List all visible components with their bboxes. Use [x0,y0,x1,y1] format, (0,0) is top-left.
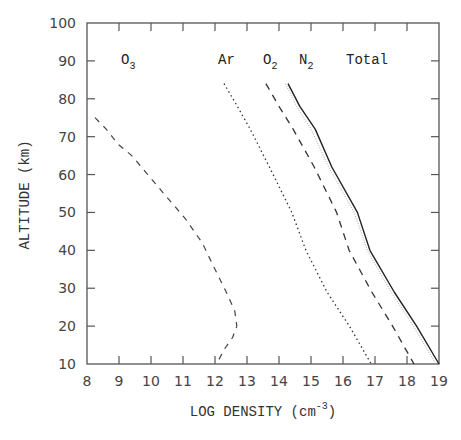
x-tick-label: 10 [142,373,160,389]
chart-canvas: 8910111213141516171819 10203040506070809… [0,0,461,440]
y-tick-label: 50 [58,204,76,220]
x-axis-title: LOG DENSITY (cm-3) [190,401,336,420]
y-tick-label: 90 [58,53,76,69]
x-tick-label: 12 [206,373,224,389]
x-tick-label: 9 [115,373,124,389]
label-o2: O2 [263,52,277,72]
y-tick-label: 40 [58,242,76,258]
x-tick-label: 13 [238,373,256,389]
curve-labels: O3ArO2N2Total [121,52,388,72]
y-tick-label: 100 [49,15,76,31]
x-tick-label: 8 [83,373,92,389]
y-tick-label: 80 [58,91,76,107]
x-tick-label: 17 [366,373,384,389]
plot-frame [87,23,439,364]
curve-o3 [95,118,237,364]
curve-ar [224,84,371,364]
curve-total [288,84,439,364]
plot-border [87,23,439,364]
label-total: Total [346,52,388,68]
label-ar: Ar [218,52,235,68]
y-tick-label: 20 [58,318,76,334]
curve-o2 [266,84,414,364]
x-tick-label: 14 [270,373,288,389]
x-axis: 8910111213141516171819 [83,23,448,389]
x-tick-label: 16 [334,373,352,389]
y-tick-label: 60 [58,167,76,183]
y-tick-label: 70 [58,129,76,145]
label-o3: O3 [121,52,135,72]
x-tick-label: 11 [174,373,192,389]
y-tick-label: 10 [58,356,76,372]
x-tick-label: 15 [302,373,320,389]
curves [95,84,439,364]
y-axis: 102030405060708090100 [49,15,439,372]
label-n2: N2 [299,52,313,72]
x-tick-label: 19 [430,373,448,389]
x-tick-label: 18 [398,373,416,389]
y-tick-label: 30 [58,280,76,296]
y-axis-title: ALTITUDE (km) [17,140,33,249]
